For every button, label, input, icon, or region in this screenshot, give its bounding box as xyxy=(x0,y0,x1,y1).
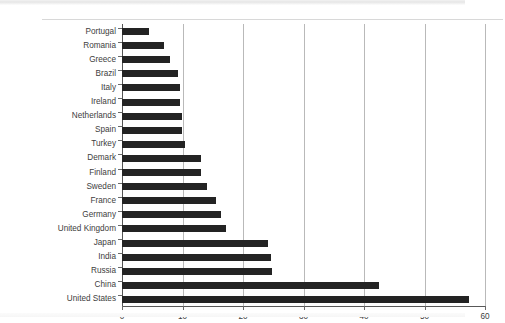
y-axis-tick-label: Portugal xyxy=(86,27,117,36)
bar xyxy=(122,240,268,247)
bar xyxy=(122,113,182,120)
plot-area xyxy=(122,24,485,306)
y-axis-tick xyxy=(118,225,122,226)
bar xyxy=(122,211,221,218)
y-axis-tick-label: Ireland xyxy=(91,97,116,106)
bar xyxy=(122,296,469,303)
bar xyxy=(122,42,164,49)
bar xyxy=(122,169,201,176)
y-axis-tick-label: Sweden xyxy=(86,182,116,191)
y-axis-tick xyxy=(118,197,122,198)
y-axis-tick xyxy=(118,28,122,29)
y-axis-tick xyxy=(118,126,122,127)
y-axis-tick xyxy=(118,281,122,282)
y-axis-tick-label: United Kingdom xyxy=(58,224,116,233)
gridline-60 xyxy=(485,24,486,306)
bar xyxy=(122,28,149,35)
y-axis-tick xyxy=(118,295,122,296)
bar xyxy=(122,70,178,77)
bar xyxy=(122,282,379,289)
bar xyxy=(122,127,182,134)
y-axis-tick-label: United States xyxy=(67,294,116,303)
x-axis-tick xyxy=(485,306,486,310)
y-axis-tick-label: France xyxy=(91,196,116,205)
gridline-30 xyxy=(304,24,305,306)
y-axis-tick xyxy=(118,183,122,184)
x-axis-tick xyxy=(243,306,244,310)
y-axis-tick xyxy=(118,42,122,43)
bar xyxy=(122,268,272,275)
y-axis-tick-label: Romania xyxy=(83,41,116,50)
x-axis-tick xyxy=(183,306,184,310)
gridline-10 xyxy=(183,24,184,306)
bar xyxy=(122,183,207,190)
y-axis-tick-label: Finland xyxy=(89,168,116,177)
horizontal-bar-chart: PortugalRomaniaGreeceBrazilItalyIrelandN… xyxy=(40,16,505,323)
bar xyxy=(122,84,180,91)
x-axis-tick xyxy=(304,306,305,310)
y-axis-tick xyxy=(118,239,122,240)
y-axis-tick xyxy=(118,253,122,254)
y-axis-tick-label: Italy xyxy=(101,83,116,92)
y-axis-tick-label: Netherlands xyxy=(72,111,116,120)
bar xyxy=(122,141,185,148)
y-axis-tick xyxy=(118,169,122,170)
x-axis-tick xyxy=(425,306,426,310)
y-axis-tick-label: Germany xyxy=(82,210,116,219)
y-axis-category-labels: PortugalRomaniaGreeceBrazilItalyIrelandN… xyxy=(40,16,116,323)
bar xyxy=(122,99,180,106)
y-axis-tick-label: Turkey xyxy=(91,139,116,148)
y-axis-tick xyxy=(118,211,122,212)
x-axis-tick xyxy=(122,306,123,310)
bar xyxy=(122,225,226,232)
gridline-20 xyxy=(243,24,244,306)
gridline-0 xyxy=(122,24,123,306)
y-axis-tick xyxy=(118,154,122,155)
gridline-50 xyxy=(425,24,426,306)
x-axis-tick-label: 60 xyxy=(472,312,498,322)
y-axis-tick xyxy=(118,140,122,141)
y-axis-tick-label: Japan xyxy=(94,238,116,247)
bar xyxy=(122,56,170,63)
y-axis-tick xyxy=(118,84,122,85)
scan-top-edge xyxy=(0,0,465,5)
y-axis-tick xyxy=(118,98,122,99)
scan-bottom-edge xyxy=(0,313,465,317)
y-axis-tick-label: Greece xyxy=(89,55,116,64)
bar xyxy=(122,155,201,162)
y-axis-tick xyxy=(118,267,122,268)
y-axis-tick-label: Demark xyxy=(87,153,116,162)
y-axis-tick xyxy=(118,112,122,113)
gridline-40 xyxy=(364,24,365,306)
y-axis-tick-label: China xyxy=(95,280,116,289)
y-axis-tick-label: Spain xyxy=(95,125,116,134)
y-axis-tick-label: Brazil xyxy=(96,69,116,78)
y-axis-tick-label: India xyxy=(98,252,116,261)
x-axis-tick xyxy=(364,306,365,310)
y-axis-tick xyxy=(118,56,122,57)
bar xyxy=(122,197,216,204)
bar xyxy=(122,254,271,261)
y-axis-tick xyxy=(118,70,122,71)
y-axis-tick-label: Russia xyxy=(91,266,116,275)
